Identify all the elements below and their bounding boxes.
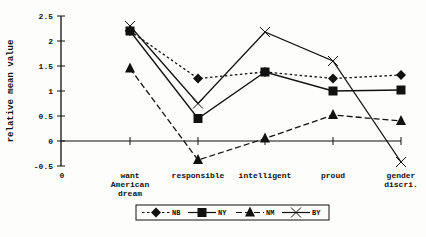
legend-item-nm: NM	[236, 207, 274, 218]
y-tick-label: 0.5	[39, 112, 54, 121]
diamond-marker	[193, 74, 203, 84]
triangle-marker	[328, 109, 338, 119]
series-line	[130, 69, 401, 161]
y-axis: 2.521.510.50-0.5	[34, 12, 65, 171]
x-category-label: wantAmericandream	[111, 171, 150, 198]
series-by	[125, 21, 406, 167]
legend-label: NY	[218, 209, 227, 217]
diamond-marker	[328, 74, 338, 84]
x-marker	[260, 27, 270, 37]
x-category-label-line: want	[120, 171, 139, 180]
legend: NBNYNMBY	[136, 205, 329, 220]
line-chart: 2.521.510.50-0.5 0wantAmericandreamrespo…	[0, 0, 426, 237]
x-marker	[193, 99, 203, 109]
y-tick-label: 1.5	[39, 62, 54, 71]
y-tick-label: 2	[48, 37, 53, 46]
triangle-marker	[260, 133, 270, 143]
y-tick-label: 2.5	[39, 12, 54, 21]
square-marker	[126, 27, 135, 36]
diamond-marker	[151, 208, 161, 218]
x-category-label: responsible	[172, 171, 225, 180]
x-category-label-line: responsible	[172, 171, 225, 180]
legend-label: NM	[266, 209, 274, 217]
x-category-label-line: gender	[387, 171, 416, 180]
legend-label: BY	[312, 209, 321, 217]
legend-label: NB	[172, 209, 181, 217]
series-layer	[125, 21, 406, 167]
series-ny	[126, 27, 406, 124]
x-axis: 0wantAmericandreamresponsibleintelligent…	[60, 137, 418, 198]
y-axis-title: relative mean value	[6, 40, 16, 143]
x-category-label-line: dream	[118, 189, 142, 198]
x-category-label: genderdiscri.	[384, 171, 418, 189]
y-tick-label: -0.5	[34, 162, 53, 171]
triangle-marker	[125, 63, 135, 73]
square-marker	[261, 68, 270, 77]
x-category-label-line: proud	[321, 171, 345, 180]
x-marker	[396, 157, 406, 167]
x-category-label: proud	[321, 171, 345, 180]
square-marker	[194, 114, 203, 123]
x-category-label-line: intelligent	[239, 171, 292, 180]
y-tick-label: 0	[48, 137, 53, 146]
x-category-label: intelligent	[239, 171, 292, 180]
square-marker	[397, 86, 406, 95]
legend-item-ny: NY	[188, 208, 227, 217]
x-origin-label: 0	[60, 171, 65, 180]
x-category-label-line: American	[111, 180, 150, 189]
triangle-marker	[396, 115, 406, 125]
triangle-marker	[245, 207, 255, 217]
y-tick-label: 1	[48, 87, 53, 96]
legend-item-by: BY	[282, 208, 321, 218]
legend-item-nb: NB	[142, 208, 181, 218]
square-marker	[198, 208, 207, 217]
x-category-label-line: discri.	[384, 180, 418, 189]
square-marker	[329, 87, 338, 96]
series-nm	[125, 63, 406, 165]
x-marker	[328, 56, 338, 66]
diamond-marker	[396, 70, 406, 80]
